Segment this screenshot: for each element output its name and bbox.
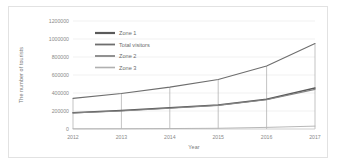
y-axis-title: The number of tourists <box>18 47 24 103</box>
series-line-total-visitors <box>73 44 315 99</box>
series-line-zone-1 <box>73 88 315 113</box>
legend-item: Zone 1 <box>95 30 136 36</box>
x-tick-label: 2015 <box>212 134 224 140</box>
legend-label: Total visitors <box>119 42 150 48</box>
y-tick-label: 1000000 <box>49 36 69 42</box>
y-tick-label: 800000 <box>52 54 69 60</box>
legend-item: Total visitors <box>95 42 150 48</box>
legend-label: Zone 3 <box>119 65 136 71</box>
x-tick-label: 2017 <box>309 134 321 140</box>
legend-label: Zone 2 <box>119 53 136 59</box>
x-tick-label: 2014 <box>164 134 176 140</box>
legend-item: Zone 2 <box>95 53 136 59</box>
y-tick-label: 0 <box>66 126 69 132</box>
y-tick-label: 1200000 <box>49 18 69 24</box>
chart-card: 0200000400000600000800000100000012000002… <box>8 6 328 158</box>
x-axis-title: Year <box>188 144 199 150</box>
series-line-zone-3 <box>73 126 315 129</box>
x-tick-label: 2016 <box>261 134 273 140</box>
y-tick-label: 400000 <box>52 90 69 96</box>
y-tick-label: 200000 <box>52 108 69 114</box>
legend-label: Zone 1 <box>119 30 136 36</box>
x-tick-label: 2013 <box>116 134 128 140</box>
y-tick-label: 600000 <box>52 72 69 78</box>
chart-plot-area: 0200000400000600000800000100000012000002… <box>9 7 329 159</box>
legend-item: Zone 3 <box>95 65 136 71</box>
x-tick-label: 2012 <box>67 134 79 140</box>
line-chart: 0200000400000600000800000100000012000002… <box>9 7 329 159</box>
